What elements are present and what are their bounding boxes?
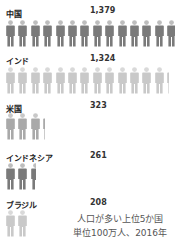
partial-person-icon xyxy=(30,163,37,190)
partial-person-icon xyxy=(166,67,169,94)
person-icon xyxy=(55,67,67,94)
person-icon xyxy=(141,20,153,47)
country-label-china: 中国 xyxy=(6,8,21,19)
person-icon xyxy=(104,20,116,47)
person-icon xyxy=(5,20,17,47)
value-usa: 323 xyxy=(90,101,107,110)
person-icon xyxy=(67,20,79,47)
person-icon xyxy=(55,20,67,47)
person-icon xyxy=(141,67,153,94)
person-icon xyxy=(17,113,29,140)
person-icon xyxy=(30,20,42,47)
person-icon xyxy=(42,67,54,94)
person-icon xyxy=(17,210,29,237)
person-icon xyxy=(17,67,29,94)
value-china: 1,379 xyxy=(90,6,115,15)
person-icon xyxy=(117,67,129,94)
person-icon xyxy=(117,20,129,47)
partial-person-icon xyxy=(42,113,45,140)
icon-row-brazil xyxy=(5,210,31,237)
partial-person-icon xyxy=(30,210,31,237)
caption-title: 人口が多い上位5か国 xyxy=(55,212,185,226)
person-icon xyxy=(5,67,17,94)
person-icon xyxy=(30,113,42,140)
person-icon xyxy=(129,67,141,94)
person-icon xyxy=(104,67,116,94)
person-icon xyxy=(67,67,79,94)
icon-row-indonesia xyxy=(5,163,36,190)
icon-row-usa xyxy=(5,113,45,140)
person-icon xyxy=(92,20,104,47)
icon-row-india xyxy=(5,67,169,94)
country-label-indonesia: インドネシア xyxy=(6,152,52,163)
partial-person-icon xyxy=(166,20,175,47)
country-label-brazil: ブラジル xyxy=(6,199,37,210)
person-icon xyxy=(154,20,166,47)
chart-caption: 人口が多い上位5か国 単位100万人、2016年 xyxy=(55,212,185,240)
person-icon xyxy=(42,20,54,47)
person-icon xyxy=(79,67,91,94)
person-icon xyxy=(79,20,91,47)
icon-row-china xyxy=(5,20,175,47)
value-brazil: 208 xyxy=(90,198,107,207)
person-icon xyxy=(17,163,29,190)
person-icon xyxy=(92,67,104,94)
value-indonesia: 261 xyxy=(90,151,107,160)
person-icon xyxy=(154,67,166,94)
person-icon xyxy=(30,67,42,94)
person-icon xyxy=(17,20,29,47)
value-india: 1,324 xyxy=(90,54,115,63)
person-icon xyxy=(5,210,17,237)
person-icon xyxy=(5,163,17,190)
person-icon xyxy=(5,113,17,140)
country-label-india: インド xyxy=(6,55,29,66)
person-icon xyxy=(129,20,141,47)
caption-unit: 単位100万人、2016年 xyxy=(55,226,185,240)
